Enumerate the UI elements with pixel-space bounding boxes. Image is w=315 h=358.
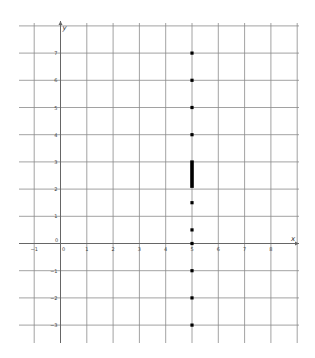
x-tick-label: 2 — [112, 246, 115, 252]
origin-label: 0 — [55, 237, 58, 243]
data-point — [190, 106, 193, 109]
x-tick-label: 5 — [190, 246, 193, 252]
y-tick-label: 7 — [54, 50, 57, 56]
data-point — [190, 324, 193, 327]
data-point — [190, 269, 193, 272]
dense-point-segment — [190, 160, 194, 187]
coordinate-plane: −1012345678−3−2−11234567 x y 0 — [0, 0, 315, 358]
y-tick-label: −1 — [50, 268, 57, 274]
x-tick-label: −1 — [31, 246, 38, 252]
x-tick-label: 0 — [62, 246, 65, 252]
data-point — [190, 201, 193, 204]
y-tick-label: 1 — [54, 213, 57, 219]
y-tick-label: 6 — [54, 77, 57, 83]
y-tick-label: −3 — [50, 322, 57, 328]
data-point — [190, 296, 193, 299]
data-point — [190, 228, 193, 231]
y-tick-label: 3 — [54, 159, 57, 165]
x-tick-label: 8 — [269, 246, 272, 252]
data-point — [190, 52, 193, 55]
x-tick-label: 1 — [85, 246, 88, 252]
x-tick-label: 3 — [138, 246, 141, 252]
axes — [19, 21, 299, 343]
data-point — [190, 133, 193, 136]
x-tick-label: 4 — [164, 246, 167, 252]
data-point — [190, 242, 193, 245]
y-tick-label: 5 — [54, 105, 57, 111]
y-tick-label: 2 — [54, 186, 57, 192]
y-tick-label: −2 — [50, 295, 57, 301]
x-tick-label: 6 — [217, 246, 220, 252]
x-axis-label: x — [290, 235, 296, 243]
y-tick-label: 4 — [54, 132, 57, 138]
x-tick-label: 7 — [243, 246, 246, 252]
y-axis-label: y — [62, 24, 68, 32]
data-point — [190, 79, 193, 82]
